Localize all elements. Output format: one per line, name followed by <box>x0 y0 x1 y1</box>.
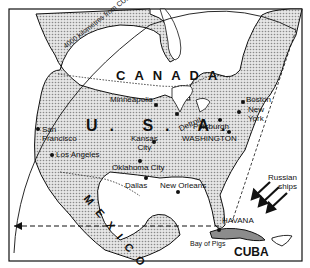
city-dot-minneapolis <box>154 103 158 107</box>
city-label-los-angeles: Los Angeles <box>56 151 100 159</box>
cuban-missile-map: 4000 kilometres from CUBA CANADA U. S. A… <box>0 0 310 268</box>
city-dot-new-orleans <box>176 190 180 194</box>
city-dot-new-york <box>237 110 241 114</box>
country-label-canada: CANADA <box>116 69 226 82</box>
city-dot-los-angeles <box>50 153 54 157</box>
label-bay-of-pigs: Bay of Pigs <box>190 240 225 247</box>
city-dot-san-francisco <box>36 127 40 131</box>
label-russian-ships: Russian ships <box>268 173 297 191</box>
city-dot-dallas <box>144 176 148 180</box>
city-label-dallas: Dallas <box>125 182 147 190</box>
city-label-new-orleans: New Orleans <box>160 182 206 190</box>
city-label-boston: Boston <box>246 96 271 104</box>
city-label-new-york: New York <box>248 105 264 123</box>
city-label-minneapolis: Minneapolis <box>110 96 153 104</box>
country-label-cuba: CUBA <box>234 246 269 258</box>
city-label-havana: HAVANA <box>222 217 254 225</box>
city-label-pittsburgh: Pittsburgh <box>193 123 229 131</box>
city-dot-havana <box>217 228 221 232</box>
city-label-san-francisco: San Francisco <box>42 125 77 143</box>
city-label-kansas-city: Kansas City <box>131 134 158 152</box>
city-label-oklahoma-city: Oklahoma City <box>112 164 164 172</box>
city-label-washington: WASHINGTON <box>182 135 237 143</box>
city-dot-boston <box>241 100 245 104</box>
city-dot-detroit <box>175 112 179 116</box>
